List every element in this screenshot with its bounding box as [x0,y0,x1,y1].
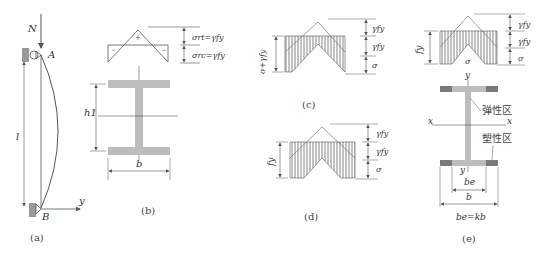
width-label: b [466,192,472,202]
panel-a-column: N A l B y (a) [16,14,85,243]
plastic-zone-bottom-right [486,160,498,166]
caption-a: (a) [30,232,44,243]
right-label-3: σ [372,61,378,70]
residual-compression-label: σrc=γfy [192,51,225,60]
right-label-3: σ [376,165,382,174]
stress-hatched-region [290,142,355,178]
plastic-zone-top-left [440,86,452,92]
panel-d: fy γfy γfy σ (d) [266,124,389,222]
plastic-zone-bottom-left [440,160,452,166]
right-label-2: γfy [518,37,531,46]
center-sigma-label: σ [465,57,471,66]
figure-canvas: N A l B y (a) + − − σrt=γfy σrc=γfy [0,0,540,256]
caption-b: (b) [141,205,155,216]
left-dim-label: σ+γfy [258,49,267,74]
width-label: b [136,158,142,169]
top-flange [108,80,170,88]
y-axis-label: y [78,195,85,206]
x-axis-right-label: x [507,116,512,126]
roller-icon [30,51,38,59]
right-label-2: γfy [372,42,385,51]
tension-sign: + [135,34,141,42]
right-label-1: γfy [376,129,389,138]
panel-e: σ fy γfy γfy σ y x x 弹性区 塑性区 y [414,14,531,244]
residual-tension-label: σrt=γfy [192,33,224,42]
support-a-label: A [47,49,55,60]
stress-hatched-region [285,36,345,72]
elastic-zone-label: 弹性区 [482,104,512,116]
caption-e: (e) [462,233,476,244]
compression-sign-left: − [111,46,116,53]
panel-b: + − − σrt=γfy σrc=γfy h1 b (b) [84,27,225,216]
left-dim-label: fy [266,157,276,167]
top-support-wall-icon [22,48,29,62]
left-dim-label: fy [414,45,424,55]
web [135,88,143,147]
pin-icon [36,204,41,214]
right-label-1: γfy [518,20,531,29]
y-axis-bottom-label: y [459,165,466,175]
y-axis-top-label: y [464,70,471,80]
caption-c: (c) [302,99,316,110]
right-label-2: γfy [376,147,389,156]
plastic-zone-top-right [486,86,498,92]
elastic-width-formula: be=kb [456,212,486,222]
bottom-support-wall-icon [29,203,36,217]
support-b-label: B [41,211,49,222]
x-axis-left-label: x [428,116,433,126]
load-label: N [27,23,38,34]
bottom-flange [108,147,170,155]
plastic-zone-label: 塑性区 [482,132,512,144]
right-label-1: γfy [372,24,385,33]
elastic-width-label: be [464,177,475,187]
caption-d: (d) [304,211,318,222]
web [465,92,471,160]
length-label: l [16,131,19,142]
compression-sign-right: − [161,46,166,53]
right-label-3: σ [518,54,524,63]
height-label: h1 [84,107,97,118]
panel-c: σ+γfy γfy γfy σ (c) [258,19,385,110]
deflected-column [41,55,58,208]
